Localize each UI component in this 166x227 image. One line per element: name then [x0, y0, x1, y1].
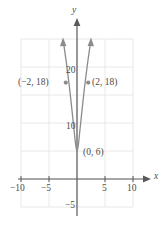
x-tick-label-neg5: −5 — [41, 184, 51, 194]
y-axis-arrow — [74, 18, 81, 26]
point-label-left: (−2, 18) — [18, 78, 49, 88]
point-marker — [86, 81, 90, 85]
y-tick-label-10: 10 — [66, 122, 76, 132]
y-axis — [74, 18, 81, 216]
y-tick-label-neg5: −5 — [65, 201, 75, 211]
y-tick-label-20: 20 — [66, 66, 76, 76]
x-tick-label-neg10: −10 — [10, 184, 25, 194]
y-axis-label: y — [72, 6, 76, 16]
graph-figure: y x −10 −5 5 10 20 10 −5 (−2, 18) (2, 18… — [0, 0, 166, 227]
point-marker — [64, 81, 68, 85]
x-axis-arrow — [143, 176, 151, 183]
x-tick-label-10: 10 — [127, 184, 137, 194]
point-label-vertex: (0, 6) — [83, 148, 104, 158]
x-tick-label-5: 5 — [102, 184, 107, 194]
point-label-right: (2, 18) — [92, 78, 117, 88]
x-axis — [18, 176, 151, 183]
x-axis-label: x — [154, 172, 158, 182]
